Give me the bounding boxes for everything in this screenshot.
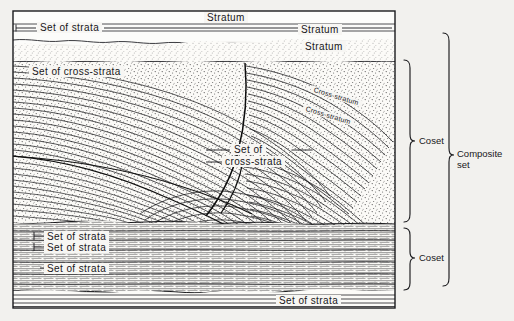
label-set-of-cross-strata-mid-line2: cross-strata: [222, 156, 285, 167]
label-stratum-3: Stratum: [302, 41, 346, 52]
label-set-of-strata-bottom: Set of strata: [276, 295, 341, 306]
label-set-of-cross-strata-left: Set of cross-strata: [29, 66, 124, 77]
label-composite-set-line2: set: [457, 160, 470, 171]
label-set-of-strata-top: Set of strata: [37, 22, 102, 33]
label-coset-upper: Coset: [419, 136, 444, 147]
label-stratum-2: Stratum: [298, 24, 342, 35]
label-set-of-strata-b: Set of strata: [44, 242, 109, 253]
label-set-of-strata-a: Set of strata: [44, 231, 109, 242]
label-composite-set-line1: Composite: [457, 149, 502, 160]
label-set-of-cross-strata-mid-line1: Set of: [231, 144, 266, 155]
label-stratum-1: Stratum: [204, 12, 248, 23]
label-set-of-strata-c: Set of strata: [44, 263, 109, 274]
label-coset-lower: Coset: [419, 253, 444, 264]
